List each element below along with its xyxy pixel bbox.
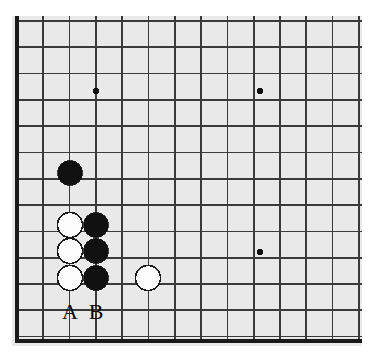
black-stone-b-bottom[interactable] [84,266,109,291]
white-stone-a-bottom[interactable] [58,266,83,291]
black-stone-b-top[interactable] [84,213,109,238]
black-stone-upper[interactable] [58,161,83,186]
star-point-lower-right [257,249,263,255]
white-stone-a-mid[interactable] [58,239,83,264]
black-stone-b-mid[interactable] [84,239,109,264]
point-label-a: A [57,301,83,323]
point-label-b: B [83,301,109,323]
star-point-upper-left [93,88,99,94]
go-board-diagram: AB [0,0,369,358]
star-point-upper-right [257,88,263,94]
white-stone-a-top[interactable] [58,213,83,238]
go-board-canvas[interactable] [0,0,369,358]
white-stone-right[interactable] [136,266,161,291]
